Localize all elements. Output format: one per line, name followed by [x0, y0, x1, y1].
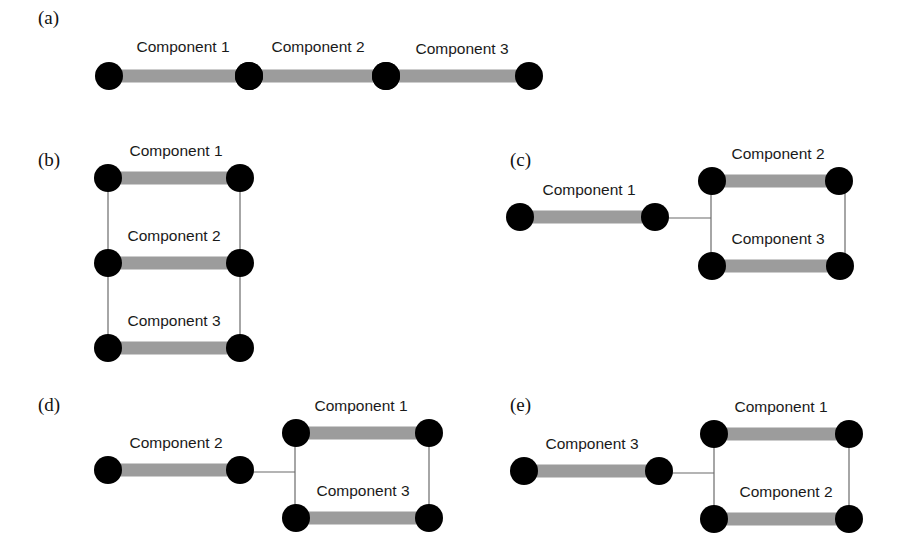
node-dot — [95, 62, 123, 90]
node-dot — [372, 62, 400, 90]
component-label: Component 2 — [129, 434, 222, 451]
node-dot — [94, 456, 122, 484]
panel-label: (d) — [38, 394, 60, 416]
panel-d: (d)Component 2Component 1Component 3 — [38, 394, 443, 532]
node-dot — [835, 505, 863, 533]
node-dot — [826, 252, 854, 280]
panel-label: (c) — [510, 149, 531, 171]
node-dot — [415, 419, 443, 447]
node-dot — [282, 419, 310, 447]
node-dot — [645, 457, 673, 485]
node-dot — [698, 252, 726, 280]
node-dot — [641, 203, 669, 231]
node-dot — [506, 203, 534, 231]
component-component-2: Component 2 — [249, 38, 386, 76]
node-dot — [515, 62, 543, 90]
node-dot — [415, 504, 443, 532]
component-label: Component 1 — [542, 181, 635, 198]
panel-label: (e) — [510, 394, 531, 416]
component-component-3: Component 3 — [386, 40, 529, 76]
node-dot — [700, 505, 728, 533]
component-component-3: Component 3 — [296, 482, 429, 518]
component-label: Component 2 — [271, 38, 364, 55]
component-label: Component 3 — [316, 482, 409, 499]
component-component-2: Component 2 — [714, 483, 849, 519]
component-component-3: Component 3 — [108, 312, 240, 348]
node-dot — [835, 420, 863, 448]
node-dot — [226, 249, 254, 277]
component-label: Component 3 — [545, 435, 638, 452]
component-component-2: Component 2 — [108, 227, 240, 263]
panel-e: (e)Component 3Component 1Component 2 — [510, 394, 863, 533]
node-dot — [700, 420, 728, 448]
component-label: Component 3 — [415, 40, 508, 57]
component-label: Component 1 — [129, 142, 222, 159]
component-component-1: Component 1 — [296, 397, 429, 433]
node-dot — [226, 164, 254, 192]
component-component-2: Component 2 — [108, 434, 240, 470]
panel-b: (b)Component 1Component 2Component 3 — [38, 142, 254, 362]
node-dot — [698, 167, 726, 195]
component-label: Component 1 — [136, 38, 229, 55]
component-component-2: Component 2 — [712, 145, 839, 181]
component-label: Component 1 — [734, 398, 827, 415]
component-label: Component 1 — [314, 397, 407, 414]
component-component-1: Component 1 — [108, 142, 240, 178]
component-component-1: Component 1 — [520, 181, 655, 217]
panel-c: (c)Component 1Component 2Component 3 — [506, 145, 854, 280]
node-dot — [94, 334, 122, 362]
panel-label: (b) — [38, 149, 60, 171]
node-dot — [282, 504, 310, 532]
node-dot — [825, 167, 853, 195]
reliability-block-diagram: (a)Component 1Component 2Component 3(b)C… — [0, 0, 899, 549]
component-label: Component 2 — [127, 227, 220, 244]
panel-a: (a)Component 1Component 2Component 3 — [38, 7, 543, 90]
node-dot — [94, 164, 122, 192]
node-dot — [226, 334, 254, 362]
component-label: Component 2 — [739, 483, 832, 500]
component-label: Component 3 — [731, 230, 824, 247]
node-dot — [235, 62, 263, 90]
component-component-3: Component 3 — [712, 230, 840, 266]
component-component-1: Component 1 — [109, 38, 249, 76]
node-dot — [94, 249, 122, 277]
component-component-3: Component 3 — [524, 435, 659, 471]
component-label: Component 2 — [731, 145, 824, 162]
panel-label: (a) — [38, 7, 59, 29]
component-label: Component 3 — [127, 312, 220, 329]
component-component-1: Component 1 — [714, 398, 849, 434]
node-dot — [510, 457, 538, 485]
node-dot — [226, 456, 254, 484]
